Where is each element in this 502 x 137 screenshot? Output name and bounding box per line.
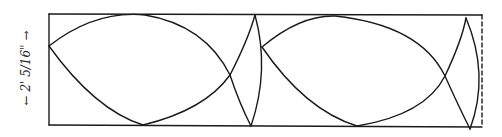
lens-middle-right xyxy=(251,15,262,126)
arc-2-lower xyxy=(262,18,466,126)
frame-top xyxy=(49,14,482,15)
arc-1-lower xyxy=(49,15,255,125)
arc-2-upper xyxy=(262,16,470,129)
pattern-diagram xyxy=(0,0,502,137)
arc-1-upper xyxy=(49,14,251,126)
lens-right xyxy=(466,18,479,129)
frame-bottom xyxy=(49,125,482,127)
